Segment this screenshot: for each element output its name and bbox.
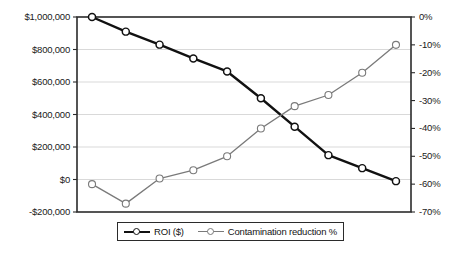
legend-item[interactable]: ROI ($) <box>124 226 184 237</box>
data-point-marker <box>325 152 332 159</box>
series-1 <box>89 14 400 185</box>
legend-item-label: ROI ($) <box>154 226 184 237</box>
data-point-marker <box>89 181 96 188</box>
y-axis-left-tick-label: $200,000 <box>32 142 70 152</box>
y-axis-right-tick-label: -70% <box>419 207 440 217</box>
data-point-marker <box>392 41 399 48</box>
chart-container: $1,000,000$800,000$600,000$400,000$200,0… <box>0 0 458 257</box>
y-axis-right-tick-label: -40% <box>419 123 440 133</box>
y-axis-right-tick-label: -10% <box>419 40 440 50</box>
y-axis-left-tick-label: $0 <box>60 175 70 185</box>
data-point-marker <box>291 123 298 130</box>
data-point-marker <box>122 200 129 207</box>
data-point-marker <box>291 103 298 110</box>
y-axis-left-tick-label: $600,000 <box>32 77 70 87</box>
data-point-marker <box>392 178 399 185</box>
y-axis-left-tick-label: $400,000 <box>32 110 70 120</box>
chart-plot-area <box>0 0 458 257</box>
y-axis-left-tick-label: $1,000,000 <box>24 12 70 22</box>
data-point-marker <box>122 28 129 35</box>
y-axis-right-tick-label: -30% <box>419 96 440 106</box>
y-axis-right-tick-label: -20% <box>419 68 440 78</box>
y-axis-right-tick-label: -60% <box>419 179 440 189</box>
data-point-marker <box>359 165 366 172</box>
data-point-marker <box>190 167 197 174</box>
y-axis-left-tick-label: -$200,000 <box>29 207 70 217</box>
y-axis-right-tick-label: 0% <box>419 12 432 22</box>
data-point-marker <box>359 69 366 76</box>
data-point-marker <box>156 41 163 48</box>
y-axis-right-tick-label: -50% <box>419 151 440 161</box>
legend-item-label: Contamination reduction % <box>228 226 337 237</box>
data-point-marker <box>156 175 163 182</box>
series-2 <box>89 41 400 207</box>
legend-line-marker-icon <box>124 227 150 236</box>
data-point-marker <box>257 95 264 102</box>
data-point-marker <box>89 14 96 21</box>
data-point-marker <box>325 92 332 99</box>
data-point-marker <box>224 68 231 75</box>
data-point-marker <box>257 125 264 132</box>
legend-line-marker-icon <box>198 227 224 236</box>
y-axis-left-tick-label: $800,000 <box>32 45 70 55</box>
series-line <box>92 17 396 181</box>
legend-item[interactable]: Contamination reduction % <box>198 226 337 237</box>
data-point-marker <box>190 55 197 62</box>
data-point-marker <box>224 153 231 160</box>
chart-legend: ROI ($)Contamination reduction % <box>117 222 344 241</box>
